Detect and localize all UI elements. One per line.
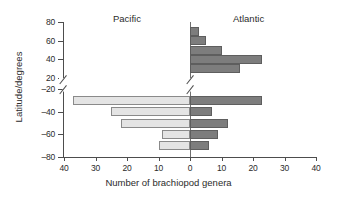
bar-pacific-40S	[111, 107, 190, 116]
bar-pacific-50S	[121, 119, 190, 128]
x-tick-label-5: 10	[207, 164, 237, 173]
x-tick-6	[253, 157, 254, 161]
bar-atlantic-70S	[190, 141, 209, 150]
bar-atlantic-50S	[190, 119, 228, 128]
bar-atlantic-50N	[190, 46, 222, 55]
x-tick-label-0: 40	[49, 164, 79, 173]
zero-line-break-mark-lower	[185, 83, 197, 97]
panel-label-atlantic: Atlantic	[233, 14, 264, 24]
x-tick-3	[159, 157, 160, 161]
bar-atlantic-40S	[190, 107, 212, 116]
y-tick-60	[58, 41, 63, 42]
x-tick-2	[127, 157, 128, 161]
y-tick--40	[58, 112, 63, 113]
bar-atlantic-30N	[190, 64, 240, 73]
x-tick-1	[96, 157, 97, 161]
panel-label-pacific: Pacific	[113, 14, 141, 24]
y-tick-label-80: 80	[15, 18, 55, 27]
y-tick--80	[58, 157, 63, 158]
x-tick-label-3: 10	[144, 164, 174, 173]
brachiopod-latitude-chart: Pacific Atlantic 80604020–20–40–60–80 40…	[0, 0, 337, 209]
x-tick-label-2: 20	[112, 164, 142, 173]
y-tick--60	[58, 134, 63, 135]
x-tick-label-6: 20	[238, 164, 268, 173]
bar-atlantic-30S	[190, 96, 262, 105]
bar-atlantic-70N	[190, 27, 199, 36]
x-tick-5	[222, 157, 223, 161]
x-tick-4	[190, 157, 191, 161]
x-tick-label-1: 30	[81, 164, 111, 173]
x-tick-label-8: 40	[301, 164, 331, 173]
bar-atlantic-40N	[190, 55, 262, 64]
x-tick-0	[64, 157, 65, 161]
x-axis-title: Number of brachiopod genera	[0, 178, 337, 188]
bar-atlantic-60S	[190, 130, 218, 139]
x-tick-label-4: 0	[175, 164, 205, 173]
y-axis-title: Latitude/degrees	[14, 32, 24, 142]
y-axis-break-mark-lower	[58, 83, 70, 97]
bar-pacific-60S	[162, 130, 190, 139]
y-tick-80	[58, 22, 63, 23]
bar-atlantic-60N	[190, 36, 206, 45]
bar-pacific-30S	[73, 96, 190, 105]
bar-pacific-70S	[159, 141, 191, 150]
x-tick-label-7: 30	[270, 164, 300, 173]
x-tick-7	[285, 157, 286, 161]
x-tick-8	[316, 157, 317, 161]
y-tick-label--80: –80	[15, 153, 55, 162]
y-tick-40	[58, 59, 63, 60]
